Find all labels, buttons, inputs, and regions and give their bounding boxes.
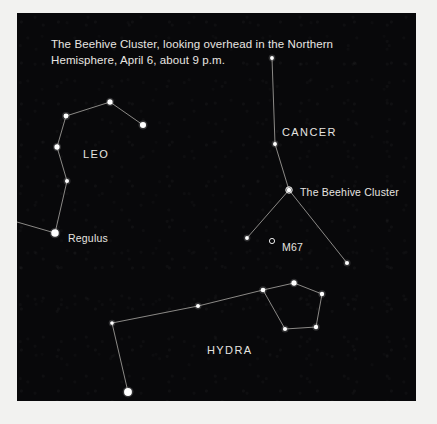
star-hydra-neck	[261, 288, 266, 293]
constellation-line-cancer	[272, 58, 275, 144]
constellation-line-hydra	[316, 294, 322, 327]
constellation-line-leo	[17, 222, 55, 233]
star-zeta-leonis	[107, 99, 112, 104]
constellation-line-cancer	[275, 144, 289, 190]
star-iota-cancri	[270, 56, 274, 60]
star-gamma-leonis	[140, 122, 146, 128]
m67-marker	[269, 238, 274, 243]
constellation-line-cancer	[247, 190, 289, 238]
constellation-line-hydra	[285, 327, 316, 329]
star-epsilon-leonis	[64, 114, 69, 119]
constellation-line-leo	[57, 147, 67, 181]
constellation-line-leo	[55, 181, 67, 233]
star-alpha-cancri	[345, 261, 349, 265]
constellation-line-leo	[110, 102, 143, 125]
starfield	[17, 13, 416, 401]
star-regulus	[51, 229, 59, 237]
constellation-line-hydra	[112, 306, 198, 323]
constellation-line-hydra	[263, 290, 285, 329]
star-head-low-r	[314, 325, 318, 329]
constellation-line-hydra	[294, 283, 322, 294]
constellation-line-leo	[57, 116, 66, 147]
constellation-line-leo	[66, 102, 110, 116]
star-hydra-body-1	[110, 321, 114, 325]
star-head-low-l	[283, 327, 287, 331]
star-eta-leonis	[54, 144, 59, 149]
constellation-line-hydra	[263, 283, 294, 290]
constellation-lines	[17, 58, 347, 392]
star-hydra-body-2	[196, 304, 200, 308]
star-gamma-cancri	[273, 142, 277, 146]
star-algieba	[65, 179, 69, 183]
star-beta-cancri	[245, 236, 249, 240]
sky-panel: The Beehive Cluster, looking overhead in…	[17, 13, 416, 401]
deep-sky-object-markers	[269, 187, 292, 244]
stars	[50, 55, 351, 398]
star-head-top	[291, 280, 296, 285]
constellation-line-hydra	[198, 290, 263, 306]
star-head-right	[320, 292, 324, 296]
star-delta-cancri	[287, 188, 291, 192]
constellation-line-hydra	[112, 323, 128, 392]
star-chart-figure: The Beehive Cluster, looking overhead in…	[0, 0, 437, 424]
constellation-line-cancer	[289, 190, 347, 263]
star-alphard	[124, 388, 132, 396]
